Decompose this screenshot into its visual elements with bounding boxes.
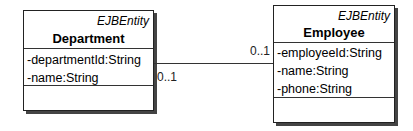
section-divider [24, 48, 153, 49]
attribute: -employeeId:String [277, 46, 382, 60]
attribute: -name:String [277, 64, 349, 78]
class-department[interactable]: EJBEntity Department -departmentId:Strin… [23, 10, 154, 111]
stereotype-label: EJBEntity [338, 9, 390, 23]
class-name: Employee [274, 25, 394, 40]
association-line[interactable] [154, 63, 273, 64]
attribute: -name:String [27, 71, 99, 85]
multiplicity-department-end: 0..1 [157, 70, 177, 84]
attribute: -phone:String [277, 82, 352, 96]
stereotype-label: EJBEntity [97, 14, 149, 28]
section-divider [274, 97, 394, 98]
section-divider [274, 42, 394, 43]
class-employee[interactable]: EJBEntity Employee -employeeId:String -n… [273, 5, 395, 123]
attribute: -departmentId:String [27, 53, 141, 67]
class-name: Department [24, 31, 153, 46]
section-divider [24, 85, 153, 86]
multiplicity-employee-end: 0..1 [250, 44, 270, 58]
